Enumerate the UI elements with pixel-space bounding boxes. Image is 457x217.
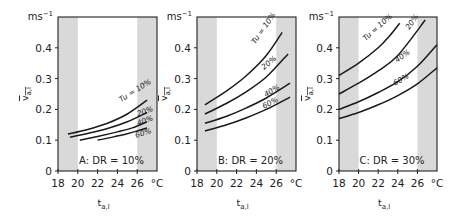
y-axis-title: va,l	[301, 87, 315, 101]
x-unit-label: °C	[431, 177, 444, 189]
y-axis-title: va,l	[158, 87, 172, 101]
panel-label: A: DR = 10%	[79, 155, 144, 166]
x-tick-label: 24	[111, 177, 125, 189]
y-unit-label: ms−1	[167, 10, 192, 22]
y-tick-label: 0.3	[35, 73, 52, 85]
y-tick-label: 0.1	[316, 134, 333, 146]
curve-label: Tu = 10%	[361, 12, 394, 43]
shaded-comfort-band	[339, 17, 359, 171]
y-tick-label: 0.1	[35, 134, 52, 146]
chart-panel-c: 00.10.20.30.4ms−1va,l1820222426°Cta,lTu …	[301, 10, 443, 211]
panel-label: B: DR = 20%	[218, 155, 283, 166]
y-tick-label: 0.3	[316, 73, 333, 85]
y-tick-label: 0.2	[316, 103, 333, 115]
x-tick-label: 22	[230, 177, 243, 189]
y-tick-label: 0.3	[174, 73, 191, 85]
x-tick-label: 26	[411, 177, 425, 189]
x-unit-label: °C	[290, 177, 303, 189]
shaded-comfort-band	[58, 17, 78, 171]
x-tick-label: 24	[250, 177, 264, 189]
x-tick-label: 22	[372, 177, 385, 189]
x-tick-label: 26	[131, 177, 145, 189]
x-unit-label: °C	[151, 177, 164, 189]
y-tick-label: 0.2	[174, 103, 191, 115]
y-tick-label: 0	[45, 165, 52, 177]
y-tick-label: 0	[326, 165, 333, 177]
chart-panel-a: 00.10.20.30.4ms−1va,l1820222426°Cta,lTu …	[19, 10, 163, 211]
x-tick-label: 22	[91, 177, 104, 189]
x-axis-title: ta,l	[97, 197, 109, 211]
chart-panel-b: 00.10.20.30.4ms−1va,l1820222426°Cta,lTu …	[158, 10, 302, 211]
y-tick-label: 0.4	[174, 42, 191, 54]
x-tick-label: 18	[332, 177, 345, 189]
shaded-comfort-band	[417, 17, 437, 171]
x-tick-label: 20	[352, 177, 365, 189]
shaded-comfort-band	[276, 17, 296, 171]
x-axis-title: ta,l	[236, 197, 248, 211]
y-unit-label: ms−1	[28, 10, 53, 22]
y-tick-label: 0.1	[174, 134, 191, 146]
shaded-comfort-band	[137, 17, 157, 171]
y-tick-label: 0.2	[35, 103, 52, 115]
y-tick-label: 0	[184, 165, 191, 177]
x-axis-title: ta,l	[378, 197, 390, 211]
y-axis-title: va,l	[19, 87, 33, 101]
x-tick-label: 20	[71, 177, 84, 189]
y-unit-label: ms−1	[309, 10, 334, 22]
panel-label: C: DR = 30%	[359, 155, 424, 166]
curve-label: Tu = 10%	[249, 11, 277, 46]
x-tick-label: 20	[210, 177, 223, 189]
curve-label: 40%	[393, 47, 412, 64]
x-tick-label: 26	[270, 177, 284, 189]
x-tick-label: 18	[51, 177, 64, 189]
figure: 00.10.20.30.4ms−1va,l1820222426°Cta,lTu …	[0, 0, 457, 217]
shaded-comfort-band	[197, 17, 217, 171]
y-tick-label: 0.4	[316, 42, 333, 54]
y-tick-label: 0.4	[35, 42, 52, 54]
x-tick-label: 24	[391, 177, 405, 189]
x-tick-label: 18	[190, 177, 203, 189]
